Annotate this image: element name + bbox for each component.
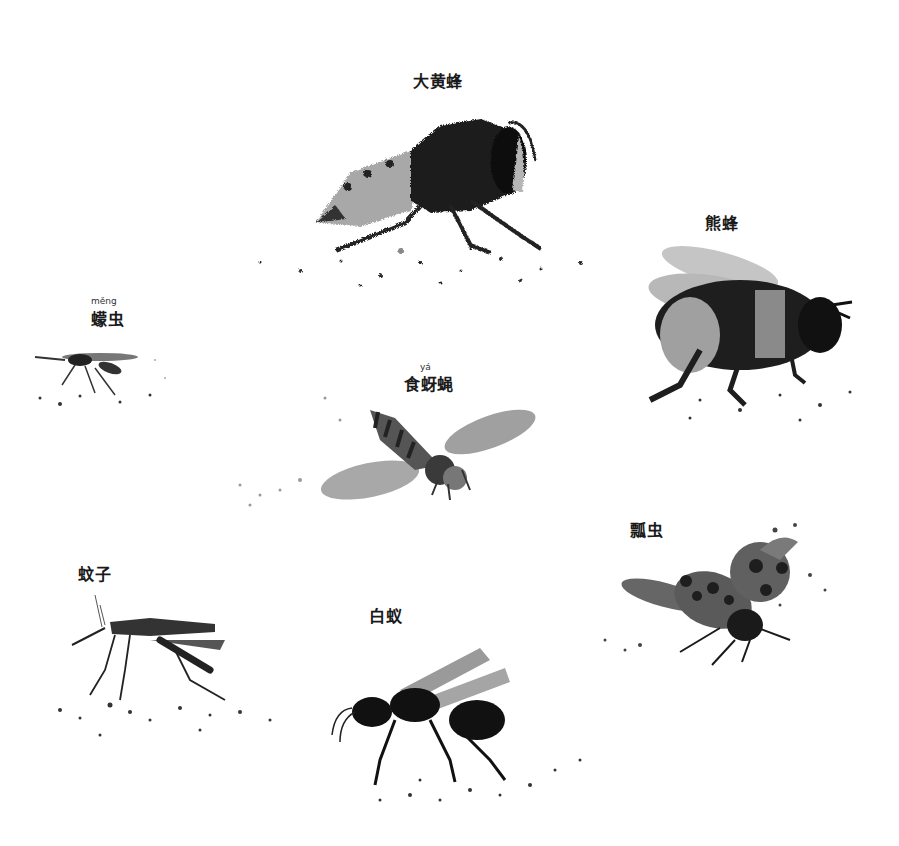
hornet-figure <box>259 118 583 287</box>
bumblebee-figure <box>646 237 852 421</box>
ladybug-figure <box>604 523 827 665</box>
hornet-label: 大黄蜂 <box>413 68 463 92</box>
bumblebee-label: 熊蜂 <box>705 210 738 234</box>
termite-label: 白蚁 <box>369 603 402 627</box>
midge-label: 蠓虫 <box>91 306 124 330</box>
ladybug-label: 瓢虫 <box>630 517 663 541</box>
insect-illustration <box>0 0 899 846</box>
mosquito-figure <box>58 595 272 737</box>
mosquito-label: 蚊子 <box>78 561 111 585</box>
hoverfly-label: 食蚜蝇 <box>404 371 454 395</box>
midge-figure <box>35 353 166 406</box>
hoverfly-figure <box>239 397 541 508</box>
termite-figure <box>332 648 582 802</box>
midge-pinyin: měng <box>91 296 117 306</box>
